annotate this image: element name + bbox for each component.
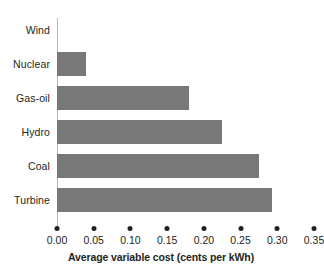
bar-track	[57, 154, 322, 178]
bar[interactable]	[57, 52, 86, 76]
category-label: Nuclear	[0, 58, 50, 70]
tick-dot-icon	[128, 226, 133, 231]
bar-row: Nuclear	[0, 52, 322, 76]
x-tick-label: 0.35	[304, 234, 324, 247]
x-tick-label: 0.25	[230, 234, 250, 247]
x-tick-label: 0.05	[83, 234, 103, 247]
tick-dot-icon	[312, 226, 317, 231]
bar[interactable]	[57, 154, 259, 178]
bar-track	[57, 188, 322, 212]
category-label: Wind	[0, 24, 50, 36]
tick-dot-icon	[201, 226, 206, 231]
category-label: Hydro	[0, 126, 50, 138]
bar-row: Hydro	[0, 120, 322, 144]
bar[interactable]	[57, 120, 222, 144]
tick-dot-icon	[238, 226, 243, 231]
bar-track	[57, 86, 322, 110]
category-label: Turbine	[0, 194, 50, 206]
bar[interactable]	[57, 86, 189, 110]
plot-area: WindNuclearGas-oilHydroCoalTurbine	[0, 0, 322, 222]
bar-track	[57, 18, 322, 42]
x-tick-label: 0.30	[267, 234, 287, 247]
x-axis-title: Average variable cost (cents per kWh)	[0, 251, 322, 264]
x-tick-label: 0.10	[120, 234, 140, 247]
bar-row: Turbine	[0, 188, 322, 212]
tick-dot-icon	[165, 226, 170, 231]
bar-row: Coal	[0, 154, 322, 178]
tick-dot-icon	[275, 226, 280, 231]
category-label: Gas-oil	[0, 92, 50, 104]
x-tick-label: 0.00	[47, 234, 67, 247]
bar-row: Wind	[0, 18, 322, 42]
tick-dot-icon	[91, 226, 96, 231]
bar-row: Gas-oil	[0, 86, 322, 110]
x-axis: 0.000.050.100.150.200.250.300.35 Average…	[0, 222, 322, 268]
tick-dot-icon	[55, 226, 60, 231]
x-tick-label: 0.15	[157, 234, 177, 247]
category-label: Coal	[0, 160, 50, 172]
bar[interactable]	[57, 188, 272, 212]
bar-track	[57, 120, 322, 144]
x-tick-label: 0.20	[194, 234, 214, 247]
bar-track	[57, 52, 322, 76]
